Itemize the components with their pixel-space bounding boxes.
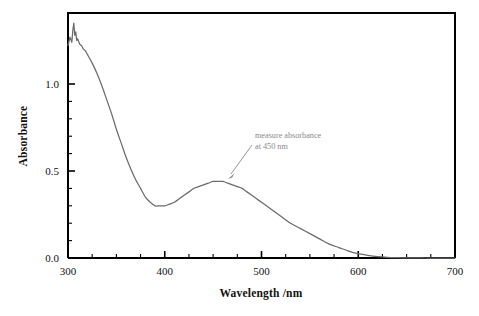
y-tick-label: 1.0	[45, 78, 59, 90]
x-tick-label: 500	[253, 265, 270, 277]
x-axis-tick-labels: 300400500600700	[60, 265, 464, 277]
spectrum-curve	[68, 23, 455, 258]
x-tick-label: 400	[157, 265, 174, 277]
chart-canvas: 300400500600700 0.00.51.0 measure absorb…	[0, 0, 479, 316]
x-axis-title: Wavelength /nm	[220, 287, 303, 300]
absorbance-spectrum-figure: 300400500600700 0.00.51.0 measure absorb…	[0, 0, 479, 316]
x-tick-label: 600	[350, 265, 367, 277]
y-axis-title: Absorbance	[17, 106, 29, 167]
x-axis-ticks	[68, 251, 455, 258]
annotation-line-1: measure absorbance	[255, 131, 322, 140]
x-tick-label: 300	[60, 265, 77, 277]
x-tick-label: 700	[447, 265, 464, 277]
y-tick-label: 0.5	[45, 165, 59, 177]
annotation-line-2: at 450 nm	[255, 142, 288, 151]
y-axis-tick-labels: 0.00.51.0	[45, 78, 59, 264]
y-tick-label: 0.0	[45, 252, 59, 264]
annotation-arrow	[228, 145, 252, 179]
y-axis-ticks	[68, 84, 75, 258]
arrow-shaft	[231, 145, 252, 174]
